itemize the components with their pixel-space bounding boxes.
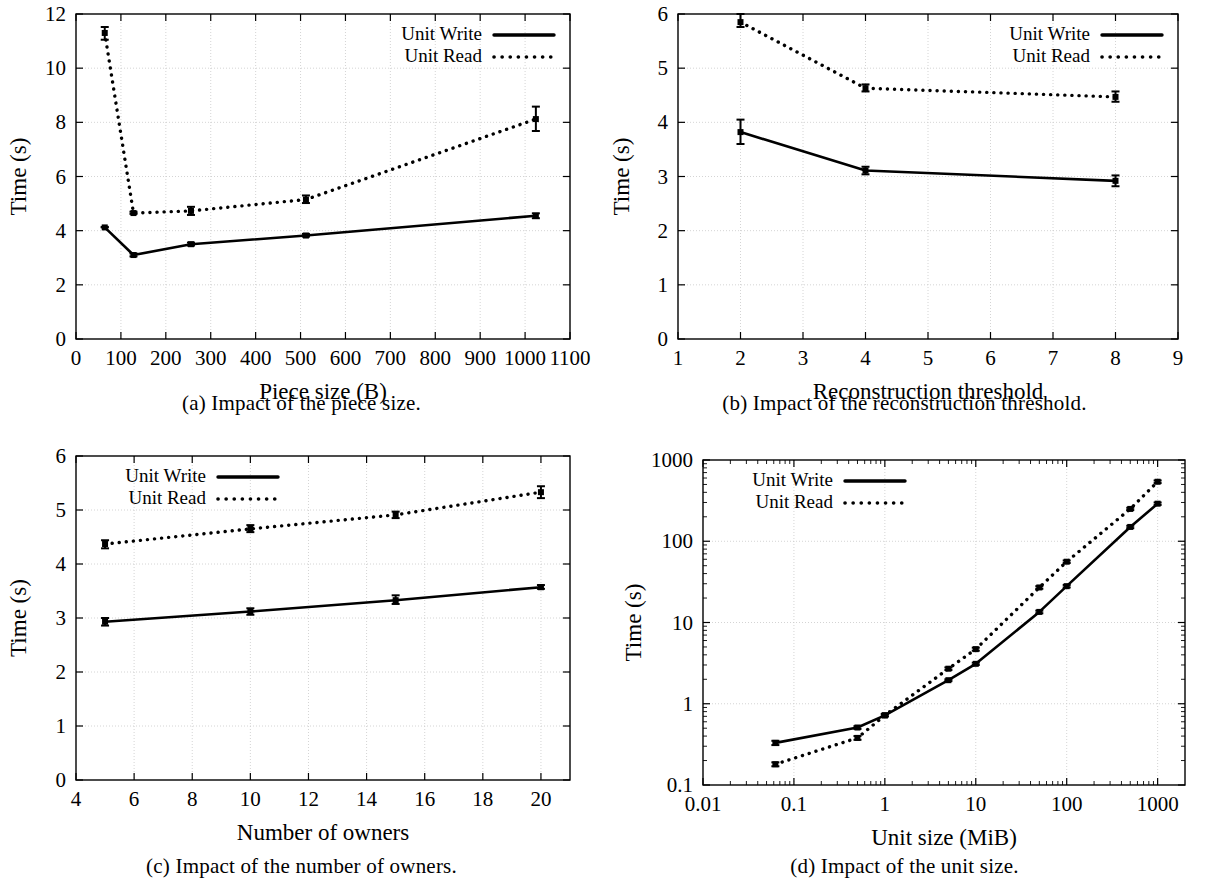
legend-a: Unit WriteUnit Read xyxy=(401,23,554,66)
y-tick-label: 1000 xyxy=(651,448,693,472)
data-point-marker xyxy=(738,19,744,25)
chart-c: 4681012141618200123456Unit WriteUnit Rea… xyxy=(0,440,603,887)
x-tick-label: 8 xyxy=(187,787,198,811)
data-point-marker xyxy=(533,116,539,122)
data-point-marker xyxy=(303,233,309,239)
legend-label-unit-read: Unit Read xyxy=(404,45,482,66)
x-tick-label: 100 xyxy=(105,346,137,370)
x-tick-label: 16 xyxy=(414,787,435,811)
y-tick-label: 10 xyxy=(45,56,66,80)
x-tick-label: 1000 xyxy=(504,346,546,370)
x-tick-label: 2 xyxy=(735,346,746,370)
data-point-marker xyxy=(772,740,778,746)
y-tick-label: 1 xyxy=(658,273,669,297)
panel-c-caption: (c) Impact of the number of owners. xyxy=(0,854,603,879)
series-line-unit-write xyxy=(741,132,1116,181)
data-point-marker xyxy=(973,661,979,667)
y-tick-label: 100 xyxy=(662,529,694,553)
data-point-marker xyxy=(772,761,778,767)
data-point-marker xyxy=(102,541,108,547)
y-tick-label: 1 xyxy=(56,714,67,738)
x-tick-label: 500 xyxy=(285,346,317,370)
panel-a-caption: (a) Impact of the piece size. xyxy=(0,391,603,416)
y-tick-label: 10 xyxy=(672,611,693,635)
x-tick-label: 4 xyxy=(71,787,82,811)
y-tick-label: 0.1 xyxy=(667,773,693,797)
x-tick-label: 700 xyxy=(375,346,407,370)
data-point-marker xyxy=(188,241,194,247)
panel-d-unit-size: 0.010.111010010000.11101001000Unit Write… xyxy=(603,440,1206,887)
y-tick-label: 8 xyxy=(56,110,67,134)
y-tick-label: 5 xyxy=(56,498,67,522)
data-point-marker xyxy=(130,252,136,258)
data-point-marker xyxy=(188,208,194,214)
data-point-marker xyxy=(130,210,136,216)
x-tick-label: 6 xyxy=(129,787,140,811)
plot-area-a: 0100200300400500600700800900100011000246… xyxy=(6,2,591,404)
data-point-marker xyxy=(1113,94,1119,100)
series-line-unit-write xyxy=(105,587,541,622)
data-point-marker xyxy=(102,224,108,230)
data-point-marker xyxy=(538,584,544,590)
y-tick-label: 3 xyxy=(56,606,67,630)
data-point-marker xyxy=(863,168,869,174)
x-tick-label: 100 xyxy=(1051,792,1083,816)
x-tick-label: 12 xyxy=(298,787,319,811)
legend-d: Unit WriteUnit Read xyxy=(752,469,905,512)
y-axis-title: Time (s) xyxy=(6,579,31,657)
x-tick-label: 10 xyxy=(965,792,986,816)
legend-label-unit-read: Unit Read xyxy=(1012,45,1090,66)
x-tick-label: 200 xyxy=(150,346,182,370)
y-tick-label: 4 xyxy=(56,552,67,576)
x-tick-label: 9 xyxy=(1173,346,1184,370)
legend-label-unit-read: Unit Read xyxy=(128,487,206,508)
y-axis-title: Time (s) xyxy=(621,584,646,662)
y-tick-label: 6 xyxy=(658,2,669,26)
x-tick-label: 20 xyxy=(530,787,551,811)
data-point-marker xyxy=(393,512,399,518)
y-tick-label: 2 xyxy=(56,273,67,297)
x-tick-label: 400 xyxy=(240,346,272,370)
y-tick-label: 1 xyxy=(683,692,694,716)
x-tick-label: 1000 xyxy=(1137,792,1179,816)
data-point-marker xyxy=(945,666,951,672)
data-point-marker xyxy=(973,646,979,652)
data-point-marker xyxy=(854,725,860,731)
y-tick-label: 4 xyxy=(56,219,67,243)
x-tick-label: 1 xyxy=(673,346,684,370)
x-tick-label: 6 xyxy=(985,346,996,370)
panel-c-number-of-owners: 4681012141618200123456Unit WriteUnit Rea… xyxy=(0,440,603,887)
panel-b-caption: (b) Impact of the reconstruction thresho… xyxy=(603,391,1206,416)
panel-d-caption: (d) Impact of the unit size. xyxy=(603,854,1206,879)
chart-d: 0.010.111010010000.11101001000Unit Write… xyxy=(603,440,1206,887)
legend-b: Unit WriteUnit Read xyxy=(1009,23,1162,66)
x-axis-title: Unit size (MiB) xyxy=(871,825,1017,850)
y-tick-label: 6 xyxy=(56,165,67,189)
chart-b: 1234567890123456Unit WriteUnit ReadRecon… xyxy=(603,0,1206,440)
x-tick-label: 4 xyxy=(860,346,871,370)
x-tick-label: 1 xyxy=(880,792,891,816)
x-tick-label: 0.1 xyxy=(781,792,807,816)
y-axis-title: Time (s) xyxy=(609,138,634,216)
x-tick-label: 18 xyxy=(472,787,493,811)
legend-label-unit-read: Unit Read xyxy=(755,491,833,512)
legend-label-unit-write: Unit Write xyxy=(401,23,482,44)
x-tick-label: 7 xyxy=(1048,346,1059,370)
plot-area-c: 4681012141618200123456Unit WriteUnit Rea… xyxy=(6,444,570,845)
data-point-marker xyxy=(393,597,399,603)
data-point-marker xyxy=(945,677,951,683)
x-tick-label: 10 xyxy=(240,787,261,811)
x-tick-label: 5 xyxy=(923,346,934,370)
y-tick-label: 2 xyxy=(56,660,67,684)
data-point-marker xyxy=(247,609,253,615)
y-tick-label: 4 xyxy=(658,110,669,134)
data-point-marker xyxy=(533,213,539,219)
data-point-marker xyxy=(1113,178,1119,184)
data-point-marker xyxy=(882,712,888,718)
data-point-marker xyxy=(1155,479,1161,485)
data-point-marker xyxy=(1064,583,1070,589)
data-point-marker xyxy=(102,30,108,36)
x-axis-title: Number of owners xyxy=(237,820,410,845)
data-point-marker xyxy=(1127,524,1133,530)
data-point-marker xyxy=(1036,584,1042,590)
